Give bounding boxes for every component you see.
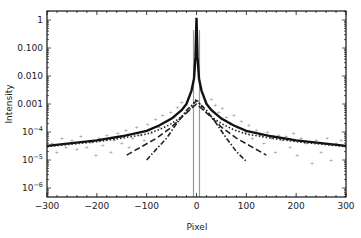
data-point: + — [209, 96, 213, 102]
x-tick-label: 100 — [238, 201, 255, 211]
x-tick-label: 300 — [337, 201, 354, 211]
data-point: + — [101, 142, 105, 148]
data-point: + — [295, 152, 299, 158]
x-tick-label: −200 — [84, 201, 109, 211]
data-point: + — [154, 116, 158, 122]
data-point: + — [232, 112, 236, 118]
data-point: + — [105, 132, 109, 138]
data-point: + — [224, 114, 228, 120]
data-point: + — [250, 135, 254, 141]
y-axis-label: Intensity — [4, 84, 14, 124]
plot-area: ++++++++++++++++++++++++++++++++++++++++… — [47, 18, 346, 197]
data-point: + — [273, 149, 277, 155]
data-point: + — [60, 135, 64, 141]
data-point: + — [325, 135, 329, 141]
data-point: + — [310, 160, 314, 166]
y-tick-label: 0.100 — [17, 43, 43, 53]
data-point: + — [262, 140, 266, 146]
data-point: + — [150, 130, 154, 136]
data-point: + — [247, 122, 251, 128]
data-point: + — [135, 124, 139, 130]
y-tick-label: 10−5 — [22, 153, 43, 165]
data-point: + — [94, 152, 98, 158]
data-point: + — [239, 118, 243, 124]
data-point: + — [142, 137, 146, 143]
data-point: + — [120, 140, 124, 146]
x-tick-label: 0 — [194, 201, 200, 211]
data-point: + — [329, 157, 333, 163]
y-tick-label: 10−4 — [22, 125, 43, 137]
intensity-profile-chart: ++++++++++++++++++++++++++++++++++++++++… — [0, 0, 361, 238]
data-point: + — [179, 99, 183, 105]
x-tick-label: 200 — [288, 201, 305, 211]
y-tick-label: 1 — [37, 15, 43, 25]
y-tick-label: 10−6 — [22, 181, 43, 193]
data-point: + — [79, 133, 83, 139]
data-point: + — [116, 130, 120, 136]
data-point: + — [339, 137, 343, 143]
data-point: + — [288, 144, 292, 150]
y-tick-label: 0.001 — [17, 99, 43, 109]
x-axis-label: Pixel — [187, 222, 208, 232]
data-point: + — [127, 144, 131, 150]
data-point: + — [220, 105, 224, 111]
data-point: + — [292, 130, 296, 136]
data-point: + — [146, 121, 150, 127]
data-point: + — [85, 144, 89, 150]
data-point: + — [319, 149, 323, 155]
data-point: + — [75, 146, 79, 152]
x-tick-label: −300 — [35, 201, 60, 211]
data-point: + — [124, 127, 128, 133]
y-tick-label: 0.010 — [17, 71, 43, 81]
data-point: + — [109, 149, 113, 155]
fit-curve-total — [47, 18, 346, 146]
fit-curve-dash-dot — [147, 101, 247, 162]
x-tick-label: −100 — [134, 201, 159, 211]
data-point: + — [55, 149, 59, 155]
data-point: + — [213, 102, 217, 108]
